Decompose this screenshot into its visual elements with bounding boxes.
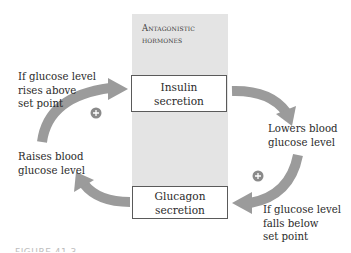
panel-title-line2: hormones <box>142 34 226 46</box>
label-line: If glucose level <box>18 70 96 84</box>
insulin-line2: secretion <box>132 94 226 108</box>
panel-title-line1: Antagonistic <box>142 22 226 34</box>
label-line: set point <box>18 97 96 111</box>
label-falls-below-set-point: If glucose level falls below set point <box>263 203 341 244</box>
label-line: rises above <box>18 84 96 98</box>
arrow-glucagon-to-raises <box>84 184 130 202</box>
label-line: If glucose level <box>263 203 341 217</box>
label-line: glucose level <box>268 136 338 150</box>
glucagon-secretion-box: Glucagon secretion <box>132 186 228 219</box>
plus-marker-right <box>253 171 264 182</box>
insulin-line1: Insulin <box>132 80 226 94</box>
label-lowers-blood-glucose: Lowers blood glucose level <box>268 122 338 149</box>
label-rises-above-set-point: If glucose level rises above set point <box>18 70 96 111</box>
figure-caption: FIGURE 41.3 <box>15 247 77 252</box>
label-line: glucose level <box>18 164 85 178</box>
label-line: Raises blood <box>18 150 85 164</box>
arrowhead-insulin <box>108 78 128 100</box>
glucagon-line1: Glucagon <box>133 189 227 203</box>
label-raises-blood-glucose: Raises blood glucose level <box>18 150 85 177</box>
arrowhead-glucagon <box>232 192 252 214</box>
insulin-secretion-box: Insulin secretion <box>131 75 227 112</box>
label-line: falls below <box>263 217 341 231</box>
arrow-insulin-to-lowers <box>232 91 286 112</box>
label-line: Lowers blood <box>268 122 338 136</box>
label-line: set point <box>263 230 341 244</box>
glucagon-line2: secretion <box>133 203 227 217</box>
panel-title: Antagonistic hormones <box>142 22 226 46</box>
